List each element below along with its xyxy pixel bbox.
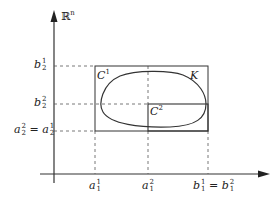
x-label-a1-2: a21 [142,179,154,193]
set-k-label: K [190,70,198,81]
y-label-b2-1: b12 [34,58,47,72]
y-label-b2-2: b22 [34,96,47,110]
box-c2-label: C2 [150,105,163,117]
guide-lines [54,66,208,174]
x-label-a1-1: a11 [89,179,101,193]
x-label-b1: b11 = b21 [193,179,234,193]
y-label-a2: a22 = a12 [14,123,54,137]
space-label: ℝn [61,10,75,22]
x-axis-arrow-icon [258,171,270,178]
y-axis-arrow-icon [51,10,58,22]
box-c1-label: C1 [97,69,110,81]
